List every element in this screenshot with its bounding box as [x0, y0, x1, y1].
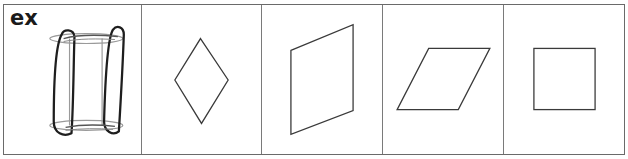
cell-square: [504, 5, 624, 154]
hand-drawn-prism-icon: [4, 5, 141, 154]
rhombus-icon: [142, 5, 261, 154]
cell-parallelogram-tilted: [262, 5, 383, 154]
shape-strip: ex: [3, 4, 625, 155]
cell-parallelogram-slanted: [383, 5, 504, 154]
tilted-parallelogram-icon: [262, 5, 382, 154]
cell-example: ex: [4, 5, 142, 154]
slanted-parallelogram-icon: [383, 5, 503, 154]
cell-rhombus: [142, 5, 262, 154]
square-icon: [504, 5, 624, 154]
